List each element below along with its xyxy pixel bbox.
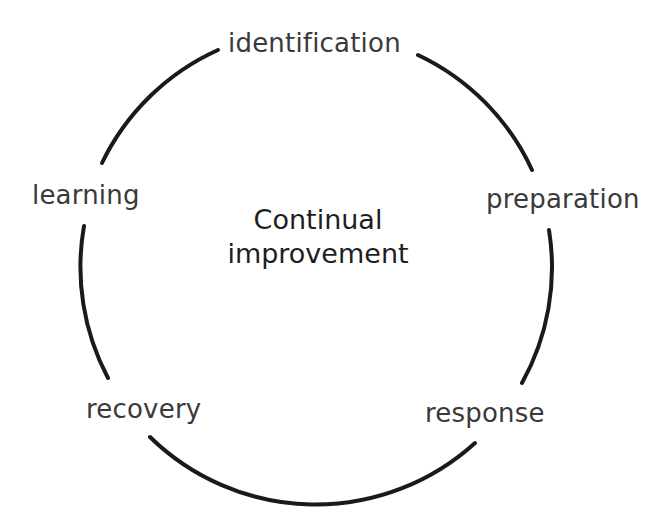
arc-response-to-recovery bbox=[150, 437, 475, 505]
arc-preparation-to-response bbox=[522, 230, 552, 383]
stage-learning: learning bbox=[32, 182, 140, 208]
stage-response: response bbox=[425, 400, 545, 426]
center-title-line2: improvement bbox=[218, 237, 418, 271]
stage-identification: identification bbox=[228, 30, 401, 56]
arc-identification-to-preparation bbox=[418, 55, 532, 170]
center-title: Continual improvement bbox=[218, 203, 418, 271]
center-title-line1: Continual bbox=[218, 203, 418, 237]
arc-recovery-to-learning bbox=[80, 226, 108, 378]
stage-recovery: recovery bbox=[86, 396, 201, 422]
continual-improvement-diagram: identification preparation response reco… bbox=[0, 0, 667, 523]
stage-preparation: preparation bbox=[486, 186, 640, 212]
arc-learning-to-identification bbox=[102, 50, 218, 163]
